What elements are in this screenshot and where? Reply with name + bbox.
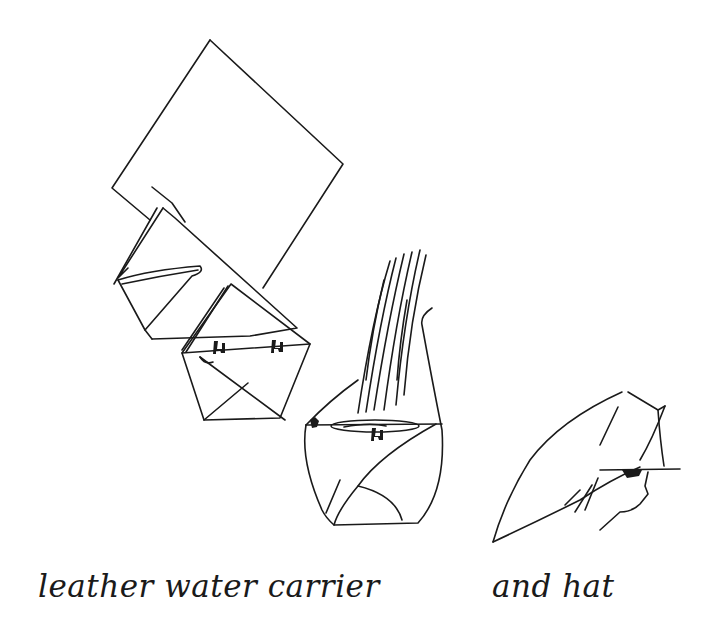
flat-leather-square-figure (112, 40, 343, 288)
second-fold-figure (182, 284, 310, 420)
caption-and-hat: and hat (492, 568, 615, 604)
filled-carrier-figure (305, 250, 443, 525)
folding-sequence-drawing (0, 0, 718, 632)
caption-leather-water-carrier: leather water carrier (38, 568, 380, 604)
illustration-canvas: leather water carrier and hat (0, 0, 718, 632)
hat-figure (493, 392, 680, 542)
